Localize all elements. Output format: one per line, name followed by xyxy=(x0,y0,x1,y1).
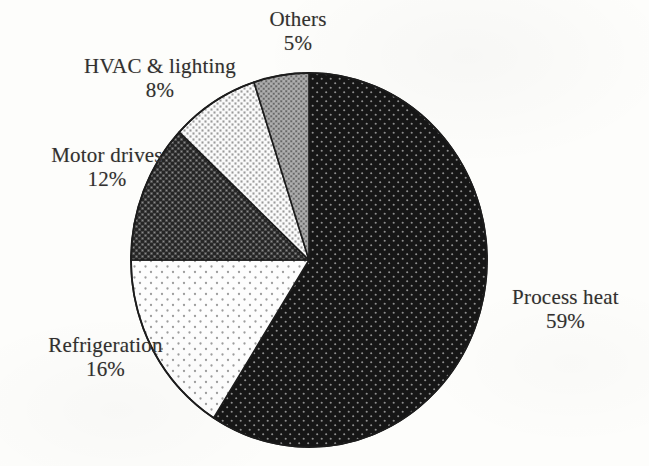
slice-label-hvac-lighting-name: HVAC & lighting xyxy=(35,55,285,79)
slice-label-process-heat-name: Process heat xyxy=(488,286,643,310)
slice-label-process-heat: Process heat 59% xyxy=(488,286,643,334)
slice-label-motor-drives: Motor drives 12% xyxy=(12,144,202,192)
slice-label-hvac-lighting-value: 8% xyxy=(35,79,285,103)
slice-label-hvac-lighting: HVAC & lighting 8% xyxy=(35,55,285,103)
pie-slices-group xyxy=(131,73,487,447)
slice-label-others-name: Others xyxy=(228,8,368,32)
slice-label-motor-drives-value: 12% xyxy=(12,168,202,192)
pie-chart-figure: Others 5% HVAC & lighting 8% Motor drive… xyxy=(0,0,649,466)
slice-label-others: Others 5% xyxy=(228,8,368,56)
slice-label-others-value: 5% xyxy=(228,32,368,56)
slice-label-motor-drives-name: Motor drives xyxy=(12,144,202,168)
slice-label-refrigeration-name: Refrigeration xyxy=(8,334,203,358)
slice-label-refrigeration-value: 16% xyxy=(8,358,203,382)
slice-label-process-heat-value: 59% xyxy=(488,310,643,334)
slice-label-refrigeration: Refrigeration 16% xyxy=(8,334,203,382)
